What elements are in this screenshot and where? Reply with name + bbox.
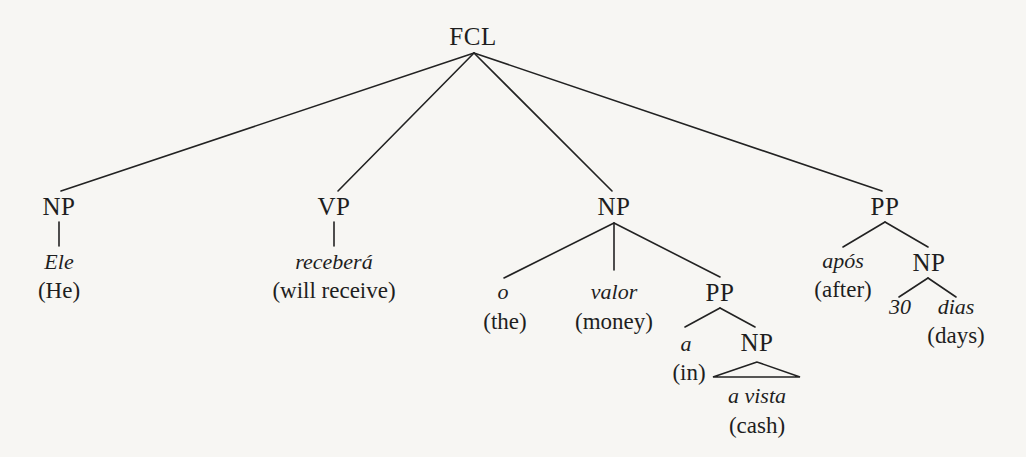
word-apos: após bbox=[822, 250, 864, 272]
gloss-in: (in) bbox=[672, 361, 705, 384]
node-np-object: NP bbox=[598, 194, 631, 219]
edge-fcl-pp-time bbox=[474, 53, 882, 191]
word-a: a bbox=[681, 333, 692, 355]
node-fcl: FCL bbox=[449, 24, 496, 49]
edge-fcl-vp bbox=[338, 53, 474, 191]
gloss-he: (He) bbox=[38, 279, 80, 302]
edge-pp-np-time bbox=[885, 222, 928, 247]
gloss-will-receive: (will receive) bbox=[272, 279, 395, 302]
syntax-tree-diagram: FCL NP Ele (He) VP receberá (will receiv… bbox=[0, 0, 1026, 457]
gloss-cash: (cash) bbox=[729, 414, 785, 437]
gloss-the: (the) bbox=[483, 310, 526, 333]
word-o: o bbox=[498, 281, 509, 303]
node-pp-inner: PP bbox=[706, 280, 735, 305]
word-a-vista: a vista bbox=[728, 385, 786, 407]
edge-fcl-np-subject bbox=[61, 53, 474, 191]
edge-pp-apos bbox=[843, 222, 885, 247]
word-ele: Ele bbox=[44, 251, 73, 273]
word-30: 30 bbox=[889, 296, 911, 318]
gloss-money: (money) bbox=[575, 310, 653, 333]
edge-pp-a bbox=[685, 308, 720, 327]
gloss-after: (after) bbox=[814, 278, 871, 301]
gloss-days: (days) bbox=[927, 324, 984, 347]
word-receberá: receberá bbox=[295, 251, 372, 273]
node-np-time: NP bbox=[913, 250, 946, 275]
edge-fcl-np-object bbox=[474, 53, 612, 191]
edge-np-pp bbox=[614, 223, 720, 277]
node-np-subject: NP bbox=[43, 194, 76, 219]
word-dias: dias bbox=[938, 296, 975, 318]
node-np-inner: NP bbox=[741, 330, 774, 355]
node-pp-time: PP bbox=[871, 194, 900, 219]
node-vp: VP bbox=[318, 194, 351, 219]
edge-pp-np bbox=[720, 308, 755, 327]
edge-np-o bbox=[504, 223, 614, 278]
word-valor: valor bbox=[591, 281, 637, 303]
edge-np-triangle bbox=[713, 362, 800, 377]
tree-edges bbox=[0, 0, 1026, 457]
